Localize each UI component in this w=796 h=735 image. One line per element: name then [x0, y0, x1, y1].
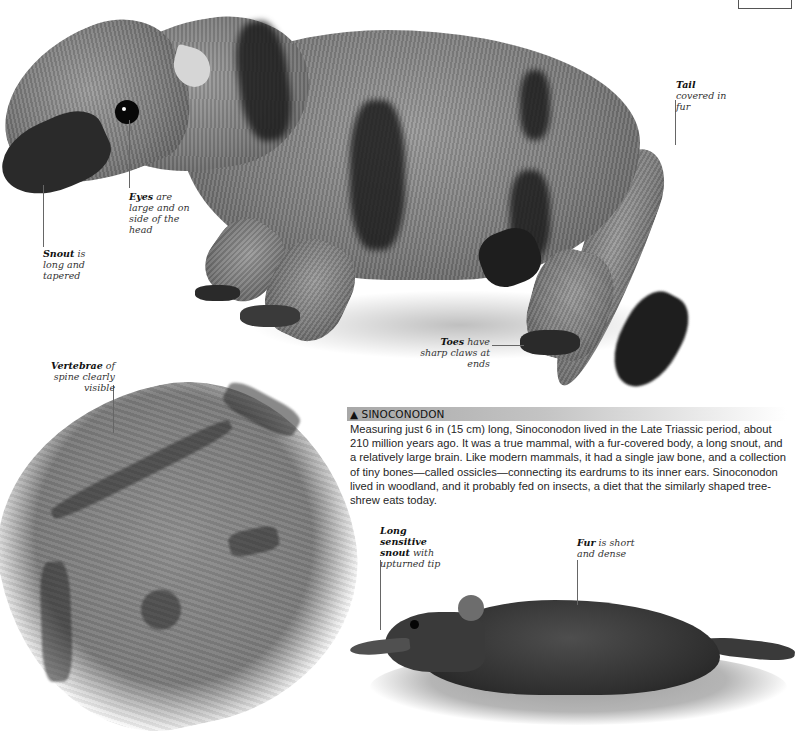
- fossil-slab: [0, 352, 386, 735]
- callout-vertebrae-term: Vertebrae: [51, 360, 103, 371]
- callout-fur: Fur is short and dense: [577, 537, 637, 559]
- callout-snout: Snout is long and tapered: [43, 248, 108, 281]
- callout-fur-term: Fur: [577, 537, 596, 548]
- fur-leader-line: [577, 560, 578, 605]
- callout-snout-term: Snout: [43, 248, 74, 259]
- snout-leader-line: [43, 185, 44, 247]
- shrew-eye: [410, 620, 419, 629]
- callout-eyes: Eyes are large and on side of the head: [129, 191, 199, 235]
- callout-long-snout: Long sensitive snout with upturned tip: [380, 525, 455, 569]
- sinoconodon-illustration: [0, 0, 787, 400]
- toes-leader-line: [492, 345, 524, 346]
- front-foot: [240, 305, 300, 327]
- eye: [115, 100, 139, 124]
- hind-foot: [520, 330, 580, 355]
- callout-eyes-term: Eyes: [129, 191, 153, 202]
- sinoconodon-article: ▲ SINOCONODON Measuring just 6 in (15 cm…: [347, 407, 787, 507]
- front-foot-far: [195, 285, 240, 301]
- eyes-leader-line: [129, 120, 130, 188]
- article-body: Measuring just 6 in (15 cm) long, Sinoco…: [347, 422, 787, 507]
- article-heading: ▲ SINOCONODON: [347, 407, 787, 421]
- callout-tail-term: Tail: [676, 79, 696, 90]
- callout-toes-term: Toes: [440, 336, 464, 347]
- callout-vertebrae: Vertebrae of spine clearly visible: [35, 360, 115, 393]
- callout-tail: Tail covered in fur: [676, 79, 736, 112]
- long-snout-leader-line: [380, 560, 381, 630]
- shrew-ear: [458, 595, 484, 621]
- callout-tail-text: covered in fur: [676, 90, 726, 112]
- callout-toes: Toes have sharp claws at ends: [418, 336, 490, 369]
